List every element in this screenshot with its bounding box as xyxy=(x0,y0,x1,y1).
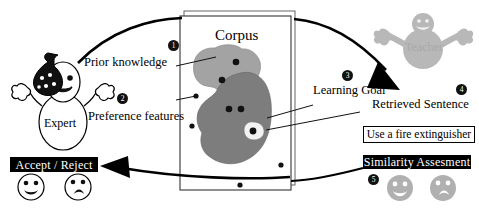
graduation-cap-icon xyxy=(33,53,62,96)
step-badge-5: 5 xyxy=(368,174,379,185)
label-corpus: Corpus xyxy=(215,28,258,43)
arrow-similarity-to-corpus xyxy=(291,168,363,181)
step-badge-2: 2 xyxy=(117,93,128,104)
label-preference-features: Preference features xyxy=(88,110,184,123)
retrieved-sentence-marker xyxy=(244,122,264,140)
arrow-corpus-to-teacher xyxy=(294,19,386,70)
accept-happy-face-icon xyxy=(18,174,44,200)
label-expert: Expert xyxy=(44,117,76,129)
step-badge-3: 3 xyxy=(342,70,353,81)
retrieved-sentence-box: Use a fire extinguisher xyxy=(363,126,475,143)
step-badge-4: 4 xyxy=(456,84,467,95)
step-badge-1: 1 xyxy=(168,40,179,51)
label-retrieved-sentence: Retrieved Sentence xyxy=(372,98,469,111)
accept-reject-banner: Accept / Reject xyxy=(10,157,98,172)
diagram-canvas: Prior knowledge Preference features Corp… xyxy=(0,0,479,214)
similarity-assessment-banner: Similarity Assesment xyxy=(363,155,471,169)
reject-sad-face-icon xyxy=(65,174,91,200)
label-teacher: Teacher xyxy=(405,41,443,53)
label-prior-knowledge: Prior knowledge xyxy=(84,56,167,69)
expert-figure xyxy=(12,62,114,150)
similarity-sad-face-icon xyxy=(430,175,456,201)
arrow-corpus-to-accept-head xyxy=(100,156,130,178)
similarity-happy-face-icon xyxy=(387,175,413,201)
label-learning-goal: Learning Goal xyxy=(313,84,386,97)
